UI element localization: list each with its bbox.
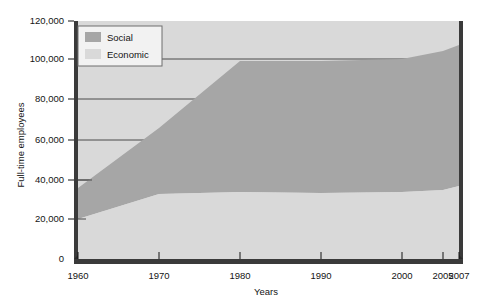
ytick-label-80000: 80,000 <box>35 93 64 104</box>
xtick-label-1980: 1980 <box>229 270 250 281</box>
xtick-label-1990: 1990 <box>310 270 331 281</box>
legend-label-social: Social <box>107 32 133 43</box>
legend-swatch-economic <box>85 49 101 59</box>
ytick-label-100000: 100,000 <box>30 53 64 64</box>
xtick-label-1960: 1960 <box>67 270 88 281</box>
x-axis-title: Years <box>254 286 278 297</box>
xtick-label-1970: 1970 <box>148 270 169 281</box>
right-axis-line <box>459 21 463 263</box>
ytick-label-60000: 60,000 <box>35 134 64 145</box>
ytick-label-20000: 20,000 <box>35 213 64 224</box>
x-axis-line <box>74 259 463 264</box>
ytick-label-40000: 40,000 <box>35 174 64 185</box>
chart-legend: Social Economic <box>78 26 162 66</box>
xtick-label-2007: 2007 <box>448 270 469 281</box>
stacked-area-chart: 120,000 100,000 80,000 60,000 40,000 20,… <box>0 0 482 301</box>
ytick-label-0: 0 <box>59 253 64 264</box>
legend-label-economic: Economic <box>107 49 149 60</box>
y-axis-title: Full-time employees <box>15 102 26 187</box>
xtick-label-2000: 2000 <box>391 270 412 281</box>
legend-swatch-social <box>85 32 101 42</box>
chart-figure: 120,000 100,000 80,000 60,000 40,000 20,… <box>0 0 482 301</box>
ytick-label-120000: 120,000 <box>30 15 64 26</box>
y-axis-line <box>74 21 78 263</box>
